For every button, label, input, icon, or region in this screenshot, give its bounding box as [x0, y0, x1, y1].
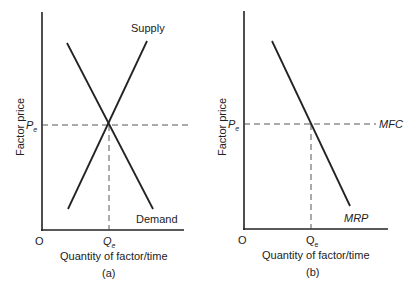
qe-text: Q [306, 234, 315, 246]
panel-a-origin-label: O [35, 235, 44, 247]
pe-subscript: e [33, 126, 37, 133]
demand-label: Demand [136, 213, 178, 225]
panel-b-origin-label: O [238, 234, 247, 246]
panel-b-qe-label: Qe [306, 234, 318, 248]
pe-subscript: e [235, 125, 239, 132]
mfc-label: MFC [379, 118, 403, 130]
panel-a-y-axis-label: Factor price [14, 98, 26, 156]
qe-text: Q [103, 235, 112, 247]
panel-a-pe-label: Pe [26, 119, 37, 133]
panel-b-pe-label: Pe [228, 118, 239, 132]
panel-a-caption: (a) [102, 267, 115, 279]
mrp-label: MRP [344, 212, 368, 224]
diagram-canvas [0, 0, 410, 289]
supply-label: Supply [131, 22, 165, 34]
qe-subscript: e [112, 242, 116, 249]
panel-b-y-axis-label: Factor price [216, 98, 228, 156]
panel-b-x-axis-label: Quantity of factor/time [262, 249, 370, 261]
panel-a-qe-label: Qe [103, 235, 115, 249]
mrp-curve [272, 41, 350, 206]
panel-b-caption: (b) [306, 266, 319, 278]
panel-a-x-axis-label: Quantity of factor/time [60, 250, 168, 262]
qe-subscript: e [315, 241, 319, 248]
